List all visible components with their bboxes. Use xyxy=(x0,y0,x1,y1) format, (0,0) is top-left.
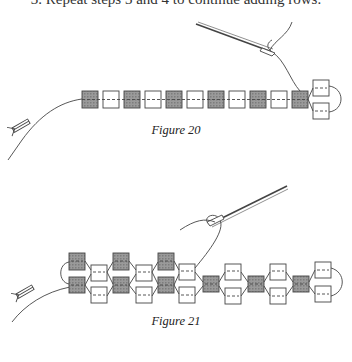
figure-20-caption: Figure 20 xyxy=(150,123,201,137)
needle-icon xyxy=(180,186,288,230)
figure-20-diagram xyxy=(7,22,341,160)
figure-21-diagram xyxy=(11,186,342,322)
needle-icon xyxy=(196,22,275,56)
beading-diagrams: Figure 20 xyxy=(0,0,352,362)
stop-bead-icon xyxy=(11,282,35,302)
figure-21-caption: Figure 21 xyxy=(150,314,200,328)
